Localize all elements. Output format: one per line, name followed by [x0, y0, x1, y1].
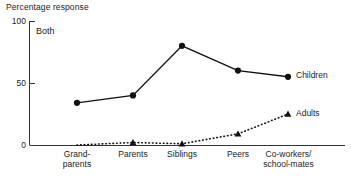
data-point-children-1	[130, 92, 136, 98]
data-point-adults-4	[285, 111, 292, 117]
axes-group	[30, 21, 346, 146]
series-children	[74, 43, 291, 106]
plot-area	[0, 0, 351, 180]
series-line-children	[77, 46, 288, 103]
data-point-children-4	[285, 74, 291, 80]
data-point-children-2	[179, 43, 185, 49]
series-line-adults	[77, 114, 288, 145]
chart-container: Percentage response Both 100 50 0 Grand-…	[0, 0, 351, 180]
data-point-children-3	[235, 68, 241, 74]
data-point-adults-3	[235, 130, 242, 136]
series-adults	[77, 111, 293, 147]
data-point-children-0	[74, 100, 80, 106]
